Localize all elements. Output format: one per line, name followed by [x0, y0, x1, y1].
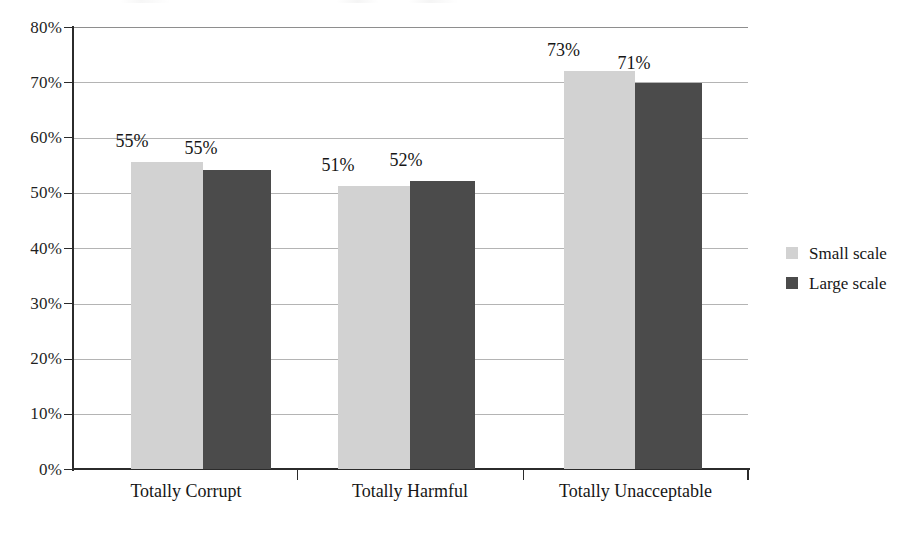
x-axis-category-totally-corrupt: Totally Corrupt — [75, 481, 297, 501]
bar-totally-harmful-small-scale[interactable] — [338, 186, 410, 469]
legend-item-small-scale[interactable]: Small scale — [786, 238, 911, 268]
bar-totally-harmful-large-scale[interactable] — [410, 181, 475, 469]
y-axis-tick-label-20: 20% — [4, 350, 62, 367]
bar-value-totally-corrupt-large-scale: 55% — [167, 139, 235, 157]
bar-totally-corrupt-small-scale[interactable] — [131, 162, 203, 469]
y-axis-tick-label-80: 80% — [4, 19, 62, 36]
y-axis-labels: 80% 70% 60% 50% 40% 30% 20% 10% 0% — [0, 0, 62, 533]
legend-item-large-scale[interactable]: Large scale — [786, 268, 911, 298]
bar-totally-unacceptable-small-scale[interactable] — [564, 71, 635, 469]
legend-label-large-scale: Large scale — [809, 275, 887, 292]
y-axis-tick-label-0: 0% — [4, 461, 62, 478]
bar-value-totally-harmful-large-scale: 52% — [373, 151, 439, 169]
y-axis-tick-label-50: 50% — [4, 184, 62, 201]
x-axis-category-totally-unacceptable: Totally Unacceptable — [523, 481, 748, 501]
y-axis-tick-label-40: 40% — [4, 240, 62, 257]
legend-swatch-small-scale-icon — [786, 247, 798, 259]
x-axis-category-totally-harmful: Totally Harmful — [297, 481, 523, 501]
bar-totally-corrupt-large-scale[interactable] — [203, 170, 271, 469]
y-axis-tick-label-10: 10% — [4, 405, 62, 422]
legend-swatch-large-scale-icon — [786, 277, 798, 289]
legend: Small scale Large scale — [786, 238, 911, 298]
bar-totally-unacceptable-large-scale[interactable] — [635, 83, 702, 469]
x-axis-end-tick — [747, 469, 749, 480]
y-axis-tick-label-60: 60% — [4, 129, 62, 146]
legend-label-small-scale: Small scale — [809, 245, 887, 262]
bar-value-totally-unacceptable-large-scale: 71% — [600, 54, 668, 72]
bar-chart-figure: 80% 70% 60% 50% 40% 30% 20% 10% 0% — [0, 0, 915, 533]
gridline-80 — [74, 27, 748, 28]
x-axis-divider-1 — [297, 469, 298, 480]
y-axis-tick-label-70: 70% — [4, 74, 62, 91]
bar-value-totally-corrupt-small-scale: 55% — [96, 132, 168, 150]
y-axis-tick-label-30: 30% — [4, 295, 62, 312]
bar-value-totally-unacceptable-small-scale: 73% — [528, 41, 599, 59]
plot-area — [74, 27, 748, 469]
scan-artifact — [120, 0, 480, 3]
x-axis-divider-2 — [523, 469, 524, 480]
bar-value-totally-harmful-small-scale: 51% — [302, 156, 374, 174]
